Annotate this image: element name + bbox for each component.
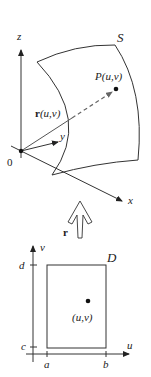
- domain-rectangle: [47, 265, 106, 348]
- mapping-arrow: r: [63, 201, 92, 238]
- diagram-svg: z S P(u,v) r(u,v) y 0 x r: [0, 0, 151, 377]
- y-axis: [21, 142, 58, 151]
- origin-label: 0: [7, 156, 13, 168]
- tick-a-label: a: [44, 358, 50, 370]
- point-p-label: P(u,v): [94, 70, 123, 83]
- position-vector-label-args: (u,v): [40, 107, 61, 120]
- domain-point-label: (u,v): [72, 311, 93, 324]
- domain-2d-figure: v D d (u,v) c u a b: [19, 241, 133, 370]
- x-axis-label: x: [127, 194, 133, 206]
- point-p-dot: [114, 87, 119, 92]
- y-axis-label: y: [59, 130, 65, 142]
- position-vector-label: r(u,v): [35, 107, 61, 120]
- tick-c-label: c: [21, 340, 26, 352]
- surface-label: S: [117, 30, 124, 45]
- surface-3d-figure: z S P(u,v) r(u,v) y 0 x: [7, 30, 139, 206]
- hollow-up-arrow-icon: [68, 201, 92, 238]
- v-axis-label: v: [40, 241, 45, 253]
- domain-label: D: [106, 250, 117, 265]
- tick-d-label: d: [19, 259, 25, 271]
- domain-point-dot: [86, 299, 91, 304]
- z-axis-label: z: [16, 30, 22, 42]
- u-axis-label: u: [127, 339, 133, 351]
- origin-dot: [19, 149, 23, 153]
- parametric-surface-diagram: z S P(u,v) r(u,v) y 0 x r: [0, 0, 151, 377]
- mapping-label: r: [63, 226, 68, 238]
- tick-b-label: b: [103, 358, 109, 370]
